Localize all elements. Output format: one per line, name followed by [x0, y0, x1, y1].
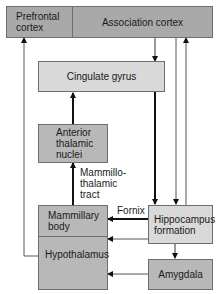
node-label: Anterior thalamic nuclei [56, 127, 96, 160]
connection-arrows [0, 0, 218, 294]
node-label: Association cortex [102, 17, 183, 28]
node-label: Amygdala [158, 269, 202, 280]
node-label: Hippocampus formation [154, 214, 209, 236]
edge-hypothalamus-to-prefrontal [24, 38, 38, 256]
node-label: Hypothalamus [45, 249, 109, 260]
node-prefrontal-cortex: Prefrontal cortex [6, 6, 73, 38]
node-amygdala: Amygdala [148, 259, 213, 290]
node-hypothalamus: Hypothalamus [38, 236, 108, 290]
node-label: Prefrontal cortex [16, 11, 56, 33]
node-label: Cingulate gyrus [67, 71, 136, 82]
label-fornix: Fornix [117, 205, 145, 216]
label-mammillothalamic-tract: Mammillo-thalamic tract [80, 167, 124, 200]
node-cingulate-gyrus: Cingulate gyrus [38, 61, 165, 92]
node-mammillary-body: Mammillary body [38, 205, 108, 237]
node-association-cortex: Association cortex [72, 6, 213, 38]
node-anterior-thalamic-nuclei: Anterior thalamic nuclei [38, 124, 108, 163]
node-hippocampus-formation: Hippocampus formation [148, 205, 213, 244]
node-label: Mammillary body [48, 210, 98, 232]
